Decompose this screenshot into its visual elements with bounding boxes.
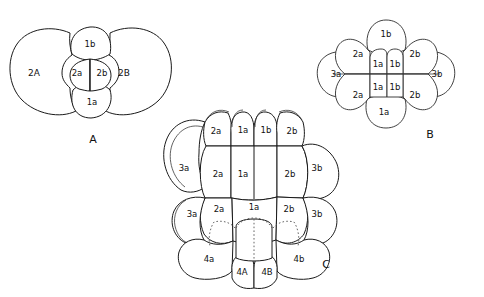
cell-label-b-1a-bottom: 1a — [379, 107, 390, 117]
cell-label-c-4b: 4b — [294, 254, 305, 264]
cell-label-b-1b-top: 1b — [381, 29, 392, 39]
panel-label-b: B — [426, 128, 434, 141]
panel-a: 2A 2B 1b 1a 2a 2b A — [10, 27, 171, 146]
cell-a-2B — [104, 28, 171, 115]
panel-b: 1b 1a 3a 3b 2a 2a 2b 2b 1a 1b 1a 1b B — [317, 20, 455, 141]
cell-label-b-2a-upper: 2a — [353, 49, 364, 59]
cell-label-c-3b-upper: 3b — [312, 163, 323, 173]
cell-label-c-2b-upper: 2b — [285, 169, 296, 179]
cell-label-c-1a-upper: 1a — [238, 169, 249, 179]
cell-label-c-2a-top: 2a — [211, 126, 222, 136]
cell-label-b-1a-inner-lower: 1a — [373, 82, 384, 92]
panel-label-a: A — [89, 133, 97, 146]
cell-label-a-2b: 2b — [97, 68, 108, 78]
cell-label-b-1b-inner-upper: 1b — [390, 59, 401, 69]
cell-label-a-2a: 2a — [72, 68, 83, 78]
cleavage-diagram-figure: 2A 2B 1b 1a 2a 2b A 1b 1a 3a 3b — [0, 0, 484, 297]
panel-c: 2a 1a 1b 2b 3a 2a 1a 2b 3b 3a 2a 1a 2b 3… — [164, 110, 339, 289]
cell-label-c-4a: 4a — [204, 254, 215, 264]
cell-label-b-1a-inner-upper: 1a — [373, 59, 384, 69]
cell-label-b-2b-upper: 2b — [410, 49, 421, 59]
cell-label-b-2b-lower: 2b — [410, 90, 421, 100]
cell-c-3a-lower — [172, 197, 205, 244]
cell-label-c-2a-upper: 2a — [213, 169, 224, 179]
cell-label-a-2B: 2B — [118, 68, 130, 78]
cell-label-c-4A-inner: 4A — [236, 267, 247, 277]
cell-label-b-3a: 3a — [331, 69, 342, 79]
cell-label-c-4B-inner: 4B — [261, 267, 272, 277]
cell-label-b-2a-lower: 2a — [353, 90, 364, 100]
cell-label-c-2b-lower: 2b — [284, 204, 295, 214]
cell-label-c-2b-top: 2b — [287, 126, 298, 136]
cell-label-c-2a-lower: 2a — [214, 204, 225, 214]
cell-label-a-1a: 1a — [87, 97, 98, 107]
cell-label-c-1b-top: 1b — [261, 125, 272, 135]
cell-label-c-1a-lower: 1a — [249, 202, 260, 212]
cell-label-c-3a-upper: 3a — [179, 163, 190, 173]
panel-label-c: C — [322, 258, 330, 271]
cell-label-b-1b-inner-lower: 1b — [390, 82, 401, 92]
cell-label-a-2A: 2A — [28, 68, 41, 78]
cell-c-3b-lower — [303, 197, 337, 244]
cell-label-b-3b: 3b — [432, 69, 443, 79]
cell-label-c-1a-top: 1a — [238, 125, 249, 135]
cell-label-c-3a-lower: 3a — [187, 209, 198, 219]
cell-label-a-1b: 1b — [85, 39, 96, 49]
cell-a-2A — [10, 29, 76, 115]
cell-label-c-3b-lower: 3b — [312, 209, 323, 219]
